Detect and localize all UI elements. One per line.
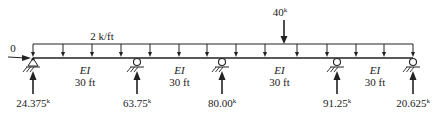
reaction-arrow xyxy=(334,71,341,94)
udl-arrow xyxy=(90,44,94,57)
span-length: 30 ft xyxy=(365,76,385,88)
reaction-arrow xyxy=(219,71,226,94)
udl-arrow xyxy=(119,44,123,57)
span-stiffness: EI xyxy=(369,64,382,76)
reaction-label: 24.375k xyxy=(16,97,50,109)
reaction-label: 63.75k xyxy=(123,97,152,109)
udl-arrow xyxy=(382,44,386,57)
udl-arrow xyxy=(354,44,358,57)
reaction-arrow xyxy=(30,71,37,94)
span-label: EI30 ft xyxy=(269,64,289,88)
span-label: EI30 ft xyxy=(365,64,385,88)
support-roller: 63.75k xyxy=(123,59,152,110)
beam-diagram: 2 k/ft 40k 0 24.375k63.75k80.00k91.25k20… xyxy=(0,0,438,114)
udl-arrow xyxy=(31,44,35,57)
reaction-label: 80.00k xyxy=(208,97,237,109)
distributed-load-label: 2 k/ft xyxy=(90,30,114,42)
udl-arrow xyxy=(148,44,152,57)
span-length: 30 ft xyxy=(75,76,95,88)
udl-arrow xyxy=(325,44,329,57)
horizontal-reaction-arrow xyxy=(8,55,31,61)
reaction-label: 20.625k xyxy=(396,97,430,109)
udl-arrow xyxy=(61,44,65,57)
support-roller: 91.25k xyxy=(323,59,352,110)
udl-arrow xyxy=(205,44,209,57)
span-stiffness: EI xyxy=(273,64,286,76)
point-load-arrow xyxy=(281,20,288,44)
udl-arrow xyxy=(177,44,181,57)
span-label: EI30 ft xyxy=(169,64,189,88)
udl-arrow xyxy=(263,44,267,57)
udl-arrow xyxy=(411,44,415,57)
support-roller: 20.625k xyxy=(396,59,430,110)
span-stiffness: EI xyxy=(173,64,186,76)
point-load-label: 40k xyxy=(273,6,288,18)
reaction-arrow xyxy=(134,71,141,94)
span-length: 30 ft xyxy=(269,76,289,88)
horizontal-reaction-label: 0 xyxy=(10,42,16,54)
span-label: EI30 ft xyxy=(75,64,95,88)
span-stiffness: EI xyxy=(79,64,92,76)
udl-arrow xyxy=(295,44,299,57)
distributed-load xyxy=(31,44,415,57)
support-roller: 80.00k xyxy=(208,59,237,110)
span-length: 30 ft xyxy=(169,76,189,88)
support-pin: 24.375k xyxy=(16,58,50,110)
reaction-arrow xyxy=(410,71,417,94)
udl-arrow xyxy=(234,44,238,57)
reaction-label: 91.25k xyxy=(323,97,352,109)
